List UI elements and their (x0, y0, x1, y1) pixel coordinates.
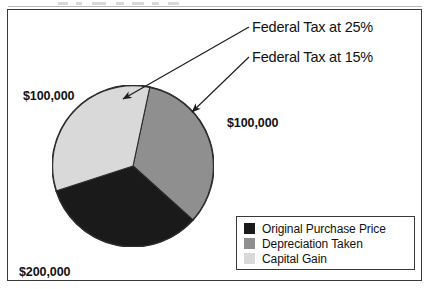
legend-label-depreciation-taken: Depreciation Taken (262, 237, 363, 251)
legend-label-original-purchase-price: Original Purchase Price (262, 222, 386, 236)
callout-label-federal-tax-25: Federal Tax at 25% (252, 19, 373, 35)
legend-swatch-original-purchase-price (244, 223, 255, 234)
pie-slices (52, 85, 214, 247)
legend-swatch-capital-gain (244, 253, 255, 264)
value-label-capital-gain: $100,000 (227, 116, 278, 130)
legend-item-capital-gain[interactable]: Capital Gain (244, 251, 414, 266)
legend-item-original-purchase-price[interactable]: Original Purchase Price (244, 221, 414, 236)
pie-chart (52, 85, 214, 247)
legend-swatch-depreciation-taken (244, 238, 255, 249)
legend-label-capital-gain: Capital Gain (262, 252, 327, 266)
legend-item-depreciation-taken[interactable]: Depreciation Taken (244, 236, 414, 251)
pie-chart-screenshot: $100,000 $100,000 $200,000 Federal Tax a… (0, 0, 430, 289)
value-label-original-purchase-price: $200,000 (19, 265, 70, 279)
legend: Original Purchase Price Depreciation Tak… (236, 216, 415, 270)
value-label-depreciation-taken: $100,000 (23, 89, 74, 103)
callout-label-federal-tax-15: Federal Tax at 15% (252, 49, 373, 65)
scan-top-rule (8, 6, 422, 7)
